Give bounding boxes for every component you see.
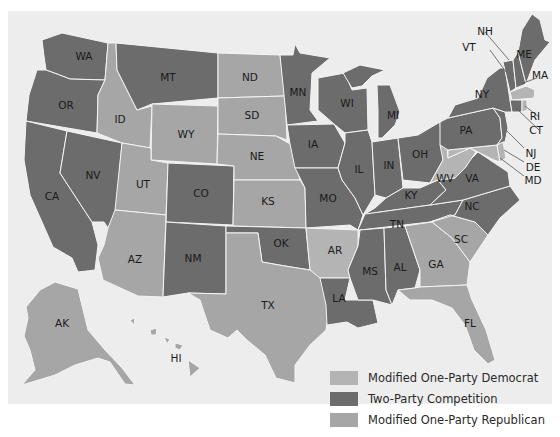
label-mt: MT <box>160 71 176 83</box>
label-de: DE <box>526 161 541 173</box>
state-ak <box>22 282 135 385</box>
label-la: LA <box>332 292 346 304</box>
label-ok: OK <box>273 237 289 249</box>
map-legend: Modified One-Party Democrat Two-Party Co… <box>330 367 545 430</box>
label-nm: NM <box>185 252 202 264</box>
label-wa: WA <box>76 50 94 62</box>
label-wy: WY <box>178 128 195 140</box>
label-ut: UT <box>136 178 151 190</box>
label-co: CO <box>193 187 209 199</box>
legend-swatch-two-party <box>330 392 358 406</box>
label-tn: TN <box>389 218 404 230</box>
label-wi: WI <box>340 97 353 109</box>
label-vt: VT <box>462 41 476 53</box>
label-ks: KS <box>261 195 275 207</box>
label-me: ME <box>516 48 532 60</box>
state-ri <box>522 100 527 112</box>
label-mn: MN <box>290 86 307 98</box>
label-ny: NY <box>475 88 490 100</box>
label-il: IL <box>355 163 364 175</box>
label-ca: CA <box>45 190 60 202</box>
label-ga: GA <box>428 258 444 270</box>
label-wv: WV <box>436 172 454 184</box>
label-nv: NV <box>85 169 101 181</box>
label-ma: MA <box>532 69 549 81</box>
label-az: AZ <box>128 253 142 265</box>
legend-item-republican: Modified One-Party Republican <box>330 409 545 430</box>
label-sd: SD <box>245 109 260 121</box>
label-nd: ND <box>242 71 258 83</box>
label-al: AL <box>393 261 406 273</box>
label-ne: NE <box>250 150 265 162</box>
label-md: MD <box>524 174 541 186</box>
label-va: VA <box>465 172 480 184</box>
map-figure: WA OR CA NV ID MT WY UT CO AZ NM ND SD N… <box>0 0 560 437</box>
label-tx: TX <box>260 299 275 311</box>
label-id: ID <box>114 113 125 125</box>
legend-label-two-party: Two-Party Competition <box>368 392 497 406</box>
label-in: IN <box>384 159 395 171</box>
label-mi: MI <box>387 109 399 121</box>
state-fl <box>398 285 495 364</box>
label-sc: SC <box>454 233 468 245</box>
label-oh: OH <box>412 148 428 160</box>
label-mo: MO <box>319 192 336 204</box>
legend-swatch-republican <box>330 413 358 427</box>
label-hi: HI <box>171 352 182 364</box>
label-ri: RI <box>530 110 540 122</box>
label-pa: PA <box>460 124 474 136</box>
state-hi <box>130 318 200 377</box>
state-ct <box>510 100 522 112</box>
label-fl: FL <box>464 317 476 329</box>
label-ar: AR <box>328 244 342 256</box>
legend-swatch-democrat <box>330 371 358 385</box>
label-nh: NH <box>477 25 493 37</box>
label-ky: KY <box>405 189 419 201</box>
label-ms: MS <box>362 265 378 277</box>
label-ia: IA <box>308 138 319 150</box>
legend-item-democrat: Modified One-Party Democrat <box>330 367 545 388</box>
label-nj: NJ <box>526 147 537 159</box>
label-ct: CT <box>529 124 543 136</box>
label-or: OR <box>58 99 74 111</box>
legend-label-democrat: Modified One-Party Democrat <box>368 371 538 385</box>
legend-label-republican: Modified One-Party Republican <box>368 413 545 427</box>
label-nc: NC <box>464 200 479 212</box>
legend-item-two-party: Two-Party Competition <box>330 388 545 409</box>
label-ak: AK <box>55 317 70 329</box>
